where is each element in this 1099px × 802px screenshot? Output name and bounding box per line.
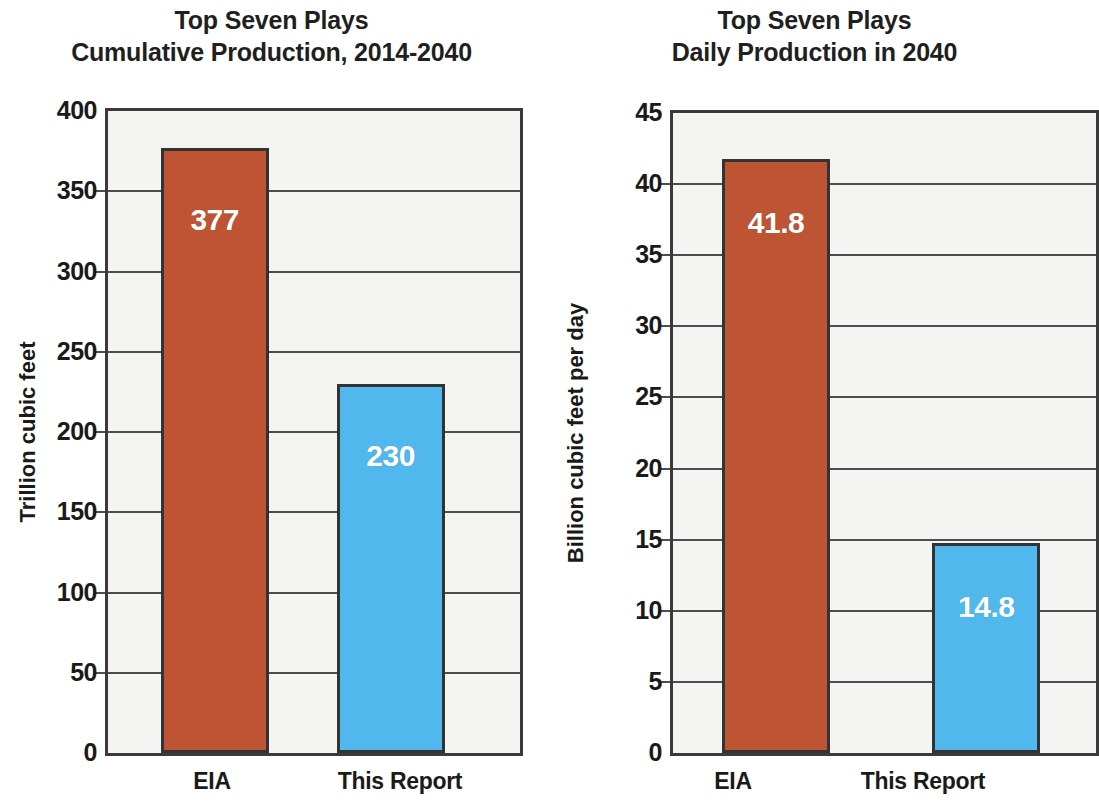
y-axis-tick-label: 40 [572, 171, 662, 196]
y-axis-tick-label: 150 [7, 499, 97, 524]
y-axis-tick-label: 5 [572, 669, 662, 694]
x-axis-label-this-report-left: This Report [320, 768, 480, 795]
y-axis-tick-label: 0 [7, 740, 97, 765]
chart-title-left-line1: Top Seven Plays [0, 4, 543, 36]
plot-inner-right: 41.814.8 [673, 113, 1096, 753]
y-axis-tick-label: 100 [7, 580, 97, 605]
y-axis-tick-label: 20 [572, 456, 662, 481]
y-axis-tick-label: 35 [572, 242, 662, 267]
bar-this-report-right: 14.8 [932, 543, 1040, 753]
bar-value-label: 14.8 [935, 590, 1037, 624]
x-axis-label-eia-left: EIA [142, 768, 282, 795]
y-axis-tick-label: 30 [572, 313, 662, 338]
bar-eia-right: 41.8 [722, 159, 830, 753]
chart-title-left-line2: Cumulative Production, 2014-2040 [0, 36, 543, 68]
y-axis-tick-label: 200 [7, 419, 97, 444]
plot-area-right: 41.814.8 [670, 110, 1099, 756]
bar-value-label: 41.8 [725, 206, 827, 240]
y-axis-tick-label: 400 [7, 98, 97, 123]
y-axis-tick-label: 300 [7, 259, 97, 284]
y-axis-tick-label: 0 [572, 740, 662, 765]
bar-eia-left: 377 [161, 148, 269, 753]
chart-title-right-line2: Daily Production in 2040 [543, 36, 1086, 68]
y-axis-tick-label: 350 [7, 178, 97, 203]
x-axis-label-this-report-right: This Report [843, 768, 1003, 795]
y-axis-title-right-text: Billion cubic feet per day [563, 303, 589, 563]
chart-title-left: Top Seven Plays Cumulative Production, 2… [0, 4, 543, 68]
y-axis-tick-label: 45 [572, 100, 662, 125]
x-axis-label-eia-right: EIA [663, 768, 803, 795]
y-axis-tick-label: 10 [572, 598, 662, 623]
chart-panel-daily-production: Top Seven Plays Daily Production in 2040… [543, 0, 1086, 802]
bar-value-label: 377 [164, 203, 266, 237]
y-axis-tick-label: 15 [572, 527, 662, 552]
y-axis-tick-label: 250 [7, 339, 97, 364]
chart-title-right-line1: Top Seven Plays [543, 4, 1086, 36]
y-axis-tick-label: 25 [572, 384, 662, 409]
chart-title-right: Top Seven Plays Daily Production in 2040 [543, 4, 1086, 68]
y-axis-tick-label: 50 [7, 660, 97, 685]
